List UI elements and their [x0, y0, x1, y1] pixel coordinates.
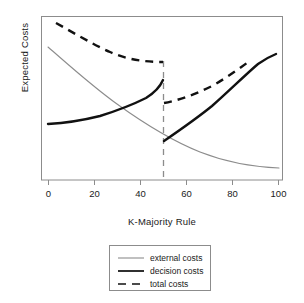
legend-label-decision-costs: decision costs [150, 264, 203, 278]
x-tick-label-60: 60 [172, 188, 202, 199]
legend-item-external-costs: external costs [110, 251, 210, 265]
series-decision-costs-segment-1 [48, 80, 163, 124]
chart-legend: external costs decision costs total cost… [109, 245, 211, 291]
x-tick-label-80: 80 [218, 188, 248, 199]
legend-item-decision-costs: decision costs [110, 264, 210, 278]
x-tick-label-0: 0 [34, 188, 64, 199]
x-axis-title: K-Majority Rule [41, 216, 283, 227]
series-total-costs-segment-1 [56, 23, 163, 62]
legend-swatch-external-costs [118, 257, 144, 259]
legend-label-external-costs: external costs [150, 251, 202, 265]
legend-swatch-total-costs [118, 283, 144, 285]
legend-item-total-costs: total costs [110, 277, 210, 291]
legend-swatch-decision-costs [118, 270, 144, 272]
x-tick-label-20: 20 [80, 188, 110, 199]
series-decision-costs-segment-2 [164, 54, 276, 141]
x-tick-label-100: 100 [264, 188, 294, 199]
plot-frame [42, 17, 283, 181]
legend-label-total-costs: total costs [150, 277, 188, 291]
x-axis-ticks [49, 180, 279, 185]
chart-figure: Expected Costs K-Majority Rule 0 20 40 6… [0, 0, 304, 303]
y-axis-title: Expected Costs [19, 0, 30, 118]
x-tick-label-40: 40 [126, 188, 156, 199]
